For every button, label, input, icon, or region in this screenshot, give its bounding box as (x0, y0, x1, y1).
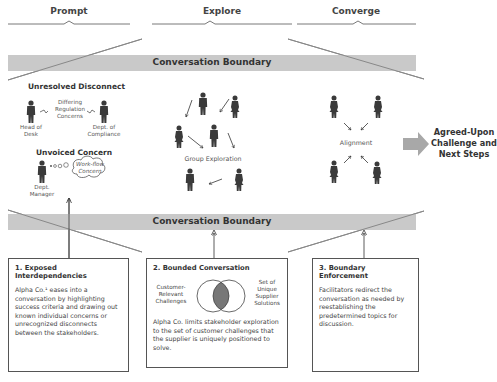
boundary-enforcement-box: 3. Boundary Enforcement Facilitators red… (312, 258, 419, 372)
agreed-upon-outcome: Agreed-Upon Challenge and Next Steps (431, 127, 497, 160)
unvoiced-concern-heading: Unvoiced Concern (36, 148, 112, 157)
head-of-desk-label: Head of Desk (13, 124, 49, 138)
venn-right-label: Set of Unique Supplier Solutions (249, 279, 285, 307)
group-exploration-label: Group Exploration (178, 155, 248, 162)
dept-manager-label: Dept. Manager (25, 184, 59, 198)
unresolved-disconnect-heading: Unresolved Disconnect (28, 82, 125, 91)
venn-left-label: Customer- Relevant Challenges (153, 284, 189, 305)
box-title: 2. Bounded Conversation (153, 264, 281, 272)
box-body: Alpha Co. limits stakeholder exploration… (153, 318, 281, 352)
exposed-interdependencies-box: 1. Exposed Interdependencies Alpha Co.¹ … (8, 258, 129, 372)
box-body: Alpha Co.¹ eases into a conversation by … (15, 286, 122, 338)
box-title: 1. Exposed Interdependencies (15, 264, 122, 280)
bounded-conversation-box: 2. Bounded Conversation Customer- Releva… (146, 258, 288, 368)
differing-regulation-note: Differing Regulation Concerns (50, 99, 90, 120)
box-title: 3. Boundary Enforcement (319, 264, 412, 280)
venn-circles-icon (191, 278, 251, 314)
alignment-label: Alignment (336, 139, 376, 146)
box-body: Facilitators redirect the conversation a… (319, 286, 412, 329)
workflow-concern-bubble: Work-flow Concern (74, 161, 106, 175)
dept-compliance-label: Dept. of Compliance (82, 124, 126, 138)
venn-diagram: Customer- Relevant Challenges Set of Uni… (153, 278, 281, 314)
